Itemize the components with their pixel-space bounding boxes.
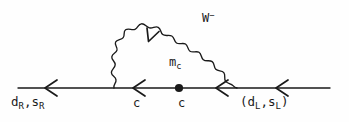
label-outgoing-base2: s <box>268 94 276 109</box>
boson-arrow-icon <box>147 28 159 42</box>
label-outgoing-close-paren: ) <box>281 94 289 109</box>
label-outgoing-base: d <box>248 94 256 109</box>
label-outgoing-open-paren: ( <box>240 94 248 109</box>
label-internal-quark-right: c <box>178 97 185 109</box>
label-gauge-boson: W− <box>202 11 214 24</box>
label-internal-quark-left: c <box>133 97 140 109</box>
label-mass-sub: c <box>176 61 181 71</box>
label-incoming-base2: s <box>31 94 39 109</box>
label-outgoing-fermion: (dL,sL) <box>240 96 289 111</box>
feynman-diagram: dR,sR (dL,sL) c c mc W− <box>0 0 349 122</box>
mass-insertion-dot <box>175 84 183 92</box>
label-incoming-base: d <box>11 94 19 109</box>
label-boson-superscript: − <box>209 10 214 20</box>
label-outgoing-separator: , <box>260 94 268 109</box>
label-incoming-sub2: R <box>39 101 44 111</box>
label-mass-insertion: mc <box>169 56 181 70</box>
label-incoming-fermion: dR,sR <box>11 96 44 111</box>
